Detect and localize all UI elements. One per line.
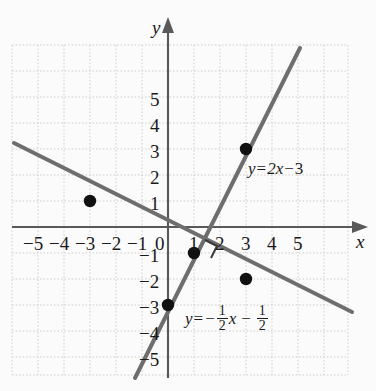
- eq2-slope-denominator: 2: [217, 319, 228, 333]
- y-axis-arrowhead: [162, 17, 174, 33]
- equation-label-line2: y=−12x−12: [185, 304, 269, 333]
- eq1-equals: =: [256, 159, 268, 178]
- eq2-slope-numerator: 1: [217, 304, 228, 319]
- eq1-slope-term: 2x: [267, 159, 283, 178]
- x-tick-label-neg3: −3: [75, 234, 95, 253]
- y-tick-label-neg1: −1: [139, 246, 159, 265]
- y-tick-label-neg3: −3: [139, 298, 159, 317]
- eq2-equals: =: [193, 309, 205, 328]
- x-tick-label-4: 4: [267, 234, 277, 253]
- grid: [12, 45, 348, 375]
- y-tick-label-5: 5: [150, 90, 160, 109]
- point-3-3: [240, 143, 252, 155]
- y-axis-name: y: [152, 18, 160, 37]
- eq2-minus: −: [236, 309, 256, 328]
- x-tick-label-neg2: −2: [101, 234, 121, 253]
- equation-label-line1: y=2x−3: [248, 160, 303, 177]
- eq2-slope-fraction: 12: [217, 304, 228, 333]
- y-tick-label-neg4: −4: [139, 324, 159, 343]
- point-3-neg2: [240, 273, 252, 285]
- x-tick-label-neg5: −5: [23, 234, 43, 253]
- x-tick-label-3: 3: [241, 234, 251, 253]
- x-tick-label-5: 5: [293, 234, 303, 253]
- x-tick-label-2: 2: [215, 234, 225, 253]
- y-tick-label-1: 1: [150, 194, 160, 213]
- point-neg3-1: [84, 195, 96, 207]
- x-tick-label-neg4: −4: [49, 234, 69, 253]
- y-tick-label-neg5: −5: [139, 350, 159, 369]
- eq1-minus: −: [283, 159, 295, 178]
- eq2-constant-numerator: 1: [257, 304, 268, 319]
- eq1-lhs: y: [248, 159, 256, 178]
- y-tick-label-4: 4: [150, 116, 160, 135]
- x-axis-name: x: [356, 232, 364, 251]
- y-tick-label-3: 3: [150, 142, 160, 161]
- eq2-lhs: y: [185, 309, 193, 328]
- eq1-constant: 3: [295, 159, 304, 178]
- x-tick-label-1: 1: [189, 234, 199, 253]
- eq2-constant-denominator: 2: [257, 319, 268, 333]
- point-0-neg3: [162, 299, 174, 311]
- coordinate-plane-figure: −5 −4 −3 −2 −1 0 1 2 3 4 5 1 2 3 4 5 −1 …: [0, 0, 376, 391]
- y-tick-label-2: 2: [150, 168, 160, 187]
- eq2-sign: −: [204, 309, 216, 328]
- eq2-constant-fraction: 12: [257, 304, 268, 333]
- y-tick-label-neg2: −2: [139, 272, 159, 291]
